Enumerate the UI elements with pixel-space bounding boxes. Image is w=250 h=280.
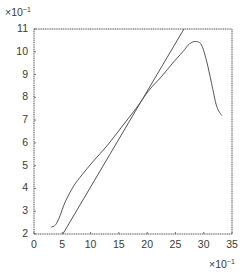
x-tick-label: 5 xyxy=(52,239,72,250)
x-tick-label: 35 xyxy=(222,239,242,250)
y-tick-label: 9 xyxy=(8,69,28,80)
x-tick-label: 30 xyxy=(194,239,214,250)
y-tick-label: 4 xyxy=(8,182,28,193)
plot-area xyxy=(0,0,250,280)
x-tick-label: 25 xyxy=(165,239,185,250)
y-tick-label: 3 xyxy=(8,205,28,216)
axis-ticks xyxy=(34,29,232,234)
y-tick-label: 2 xyxy=(8,228,28,239)
y-tick-label: 6 xyxy=(8,137,28,148)
data-series xyxy=(51,29,222,234)
x-tick-label: 20 xyxy=(137,239,157,250)
plot-frame xyxy=(34,29,232,234)
y-axis-multiplier: ×10−1 xyxy=(5,6,31,18)
y-tick-label: 7 xyxy=(8,114,28,125)
series-straight-line xyxy=(63,29,184,234)
x-tick-label: 10 xyxy=(81,239,101,250)
y-tick-label: 5 xyxy=(8,160,28,171)
x-tick-label: 15 xyxy=(109,239,129,250)
y-tick-label: 10 xyxy=(8,46,28,57)
x-tick-label: 0 xyxy=(24,239,44,250)
chart: ×10−1 ×10−1 2 3 4 5 6 7 8 9 10 11 0 5 10… xyxy=(0,0,250,280)
y-tick-label: 8 xyxy=(8,91,28,102)
y-tick-label: 11 xyxy=(8,23,28,34)
x-axis-multiplier: ×10−1 xyxy=(209,258,235,270)
series-curve xyxy=(51,41,222,227)
